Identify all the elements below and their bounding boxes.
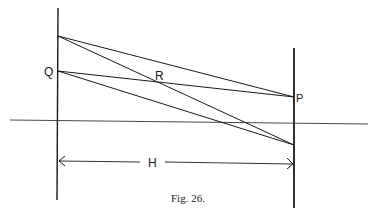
dimension-h-left-segment: [59, 161, 140, 162]
optics-diagram: Q R P H Fig. 26.: [0, 0, 375, 223]
ray-q-to-lower-right: [58, 71, 294, 145]
ray-q-to-p: [58, 71, 294, 97]
label-q: Q: [44, 65, 53, 79]
label-p: P: [296, 92, 303, 104]
label-r: R: [155, 69, 164, 83]
ray-upper-to-lower-right: [58, 36, 294, 145]
label-h: H: [148, 156, 157, 170]
figure-caption: Fig. 26.: [171, 192, 205, 204]
dimension-h-right-segment: [165, 162, 293, 164]
left-vertical-line: [57, 8, 58, 200]
optical-axis-line: [10, 120, 368, 124]
ray-upper-to-p: [58, 36, 294, 97]
